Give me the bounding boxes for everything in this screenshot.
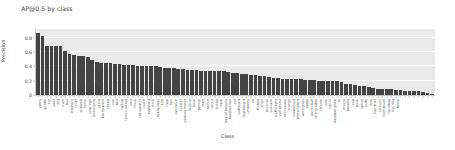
bar <box>231 73 235 95</box>
y-tick-label: 0.4 <box>25 64 32 69</box>
bar <box>353 85 357 95</box>
bar <box>195 70 199 95</box>
bar <box>317 81 321 95</box>
y-tick-mark <box>33 66 35 67</box>
x-tick: potted plant <box>294 96 298 136</box>
x-tick-mark <box>214 96 215 98</box>
x-tick: donut <box>208 96 212 136</box>
bar <box>113 64 117 95</box>
x-tick-mark <box>164 96 165 98</box>
bar <box>172 68 176 95</box>
x-tick-mark <box>133 96 134 98</box>
y-tick-mark <box>33 52 35 53</box>
x-tick-mark <box>409 96 410 98</box>
x-tick-mark <box>427 96 428 98</box>
x-tick: tennis racket <box>122 96 126 136</box>
x-tick-mark <box>305 96 306 98</box>
x-tick: hot dog <box>389 96 393 136</box>
bar <box>312 80 316 95</box>
x-tick: dog <box>54 96 58 136</box>
bar <box>72 55 76 95</box>
x-tick: suitcase <box>267 96 271 136</box>
bar <box>340 82 344 95</box>
x-tick: handbag <box>385 96 389 136</box>
bar <box>63 51 67 95</box>
x-tick: sheep <box>104 96 108 136</box>
x-tick: spoon <box>358 96 362 136</box>
x-tick: bear <box>50 96 54 136</box>
bar <box>186 70 190 95</box>
bar <box>254 75 258 95</box>
x-tick-mark <box>382 96 383 98</box>
x-tick: bus <box>63 96 67 136</box>
x-tick-mark <box>87 96 88 98</box>
bar <box>321 81 325 95</box>
x-tick-mark <box>160 96 161 98</box>
x-tick: toaster <box>176 96 180 136</box>
x-tick-mark <box>237 96 238 98</box>
x-tick: surfboard <box>235 96 239 136</box>
bar <box>281 79 285 96</box>
bar <box>127 65 131 95</box>
bar <box>176 69 180 95</box>
x-tick: airplane <box>77 96 81 136</box>
x-tick-mark <box>414 96 415 98</box>
x-tick-mark <box>219 96 220 98</box>
x-tick: broccoli <box>263 96 267 136</box>
x-tick: sink <box>321 96 325 136</box>
x-tick: frisbee <box>254 96 258 136</box>
x-tick-mark <box>314 96 315 98</box>
bar <box>68 54 72 95</box>
x-tick: sandwich <box>172 96 176 136</box>
bar <box>163 68 167 95</box>
x-tick-mark <box>359 96 360 98</box>
x-tick-mark <box>255 96 256 98</box>
bar <box>258 76 262 95</box>
x-tick: bird <box>127 96 131 136</box>
x-tick-mark <box>38 96 39 98</box>
y-axis-spine <box>35 29 36 95</box>
bar <box>149 66 153 95</box>
x-tick: horse <box>81 96 85 136</box>
x-tick-mark <box>241 96 242 98</box>
x-tick-mark <box>65 96 66 98</box>
x-tick-mark <box>47 96 48 98</box>
y-tick-mark <box>33 37 35 38</box>
bar <box>181 69 185 95</box>
x-tick: elephant <box>68 96 72 136</box>
x-tick-mark <box>287 96 288 98</box>
bar <box>208 71 212 95</box>
x-tick: cell phone <box>276 96 280 136</box>
x-tick-mark <box>128 96 129 98</box>
x-tick: couch <box>140 96 144 136</box>
x-tick <box>430 96 434 136</box>
x-tick-mark <box>192 96 193 98</box>
bar <box>131 65 135 95</box>
chart-figure: AP@0.5 by class 00.20.40.60.8 Precision … <box>0 0 455 150</box>
x-tick-mark <box>137 96 138 98</box>
bar <box>344 84 348 95</box>
x-tick: tv <box>335 96 339 136</box>
x-tick-mark <box>273 96 274 98</box>
x-tick: baseball glove <box>331 96 335 136</box>
x-tick: baseball bat <box>226 96 230 136</box>
x-tick-mark <box>74 96 75 98</box>
x-tick: parking meter <box>181 96 185 136</box>
x-tick: cup <box>349 96 353 136</box>
bar <box>326 81 330 95</box>
x-tick-mark <box>56 96 57 98</box>
bar <box>263 76 267 95</box>
x-tick-mark <box>368 96 369 98</box>
x-tick: hair drier <box>371 96 375 136</box>
bar <box>217 71 221 95</box>
x-tick-mark <box>405 96 406 98</box>
x-tick: umbrella <box>244 96 248 136</box>
x-tick-mark <box>119 96 120 98</box>
bar <box>90 60 94 95</box>
x-tick-mark <box>101 96 102 98</box>
x-tick-mark <box>332 96 333 98</box>
x-tick: toilet <box>72 96 76 136</box>
x-tick-mark <box>173 96 174 98</box>
x-tick-mark <box>223 96 224 98</box>
x-tick: toothbrush <box>380 96 384 136</box>
